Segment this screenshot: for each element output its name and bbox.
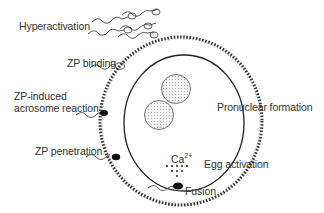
fusion-sperm (148, 183, 183, 191)
pronucleus-lower (145, 101, 174, 130)
fertilization-diagram: Hyperactivation ZP binding ZP-induced ac… (0, 0, 324, 213)
label-zp-induced-line2: acrosome reaction (14, 102, 99, 114)
label-egg-activation: Egg activation (204, 158, 269, 170)
label-calcium: Ca2+ (171, 150, 192, 165)
label-zp-binding: ZP binding (67, 57, 116, 69)
label-zp-penetration: ZP penetration (35, 145, 102, 157)
calcium-charge: 2+ (184, 152, 192, 159)
egg-membrane (124, 55, 244, 191)
hyperactivated-sperm (88, 9, 160, 38)
calcium-symbol: Ca (171, 153, 184, 165)
label-hyperactivation: Hyperactivation (19, 20, 90, 32)
pronucleus-upper (162, 75, 191, 104)
label-zp-induced-line1: ZP-induced (14, 90, 67, 102)
label-fusion: Fusion (185, 185, 216, 197)
calcium-dots (166, 165, 188, 177)
label-pronuclear-formation: Pronuclear formation (217, 101, 312, 113)
